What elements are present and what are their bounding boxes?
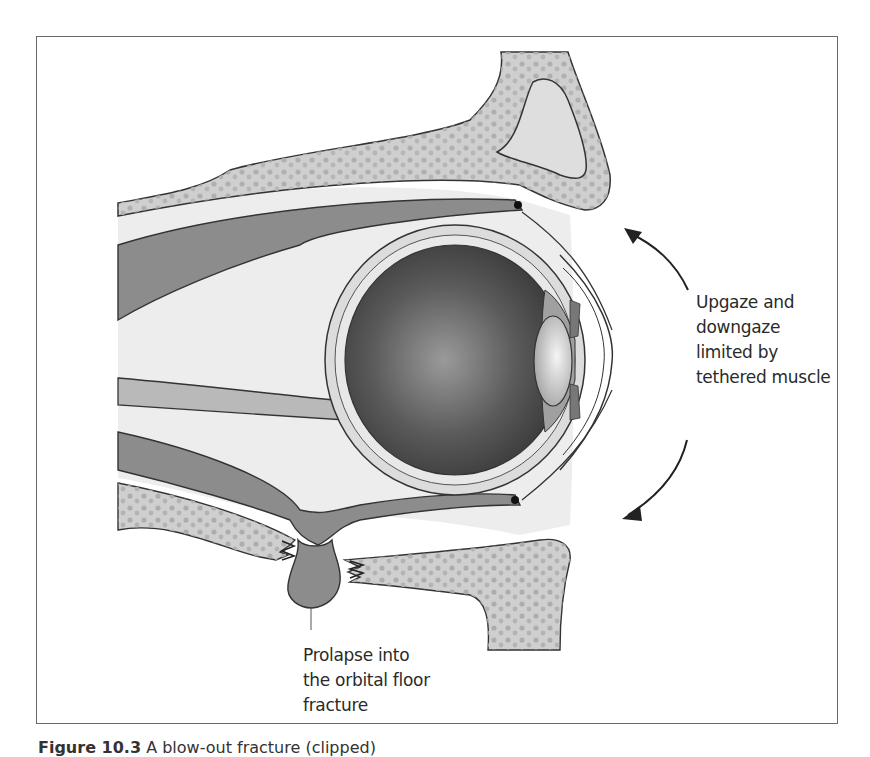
iris-upper bbox=[570, 300, 580, 338]
gaze-limitation-label: Upgaze and downgaze limited by tethered … bbox=[696, 290, 831, 390]
vitreous bbox=[345, 245, 565, 475]
prolapse-label-line-1: Prolapse into bbox=[303, 643, 430, 668]
figure-number: Figure 10.3 bbox=[38, 738, 141, 757]
upgaze-arrow-icon bbox=[624, 228, 688, 290]
prolapsed-tissue bbox=[288, 540, 340, 608]
gaze-label-line-3: limited by bbox=[696, 340, 831, 365]
gaze-label-line-2: downgaze bbox=[696, 315, 831, 340]
prolapse-label-line-3: fracture bbox=[303, 693, 430, 718]
figure-caption-text: A blow-out fracture (clipped) bbox=[146, 738, 376, 757]
prolapse-label: Prolapse into the orbital floor fracture bbox=[303, 643, 430, 718]
downgaze-arrow-icon bbox=[622, 440, 687, 521]
prolapse-label-line-2: the orbital floor bbox=[303, 668, 430, 693]
gaze-label-line-4: tethered muscle bbox=[696, 365, 831, 390]
gaze-label-line-1: Upgaze and bbox=[696, 290, 831, 315]
lens bbox=[534, 316, 572, 406]
iris-lower bbox=[570, 384, 580, 420]
figure-caption: Figure 10.3 A blow-out fracture (clipped… bbox=[38, 738, 376, 757]
